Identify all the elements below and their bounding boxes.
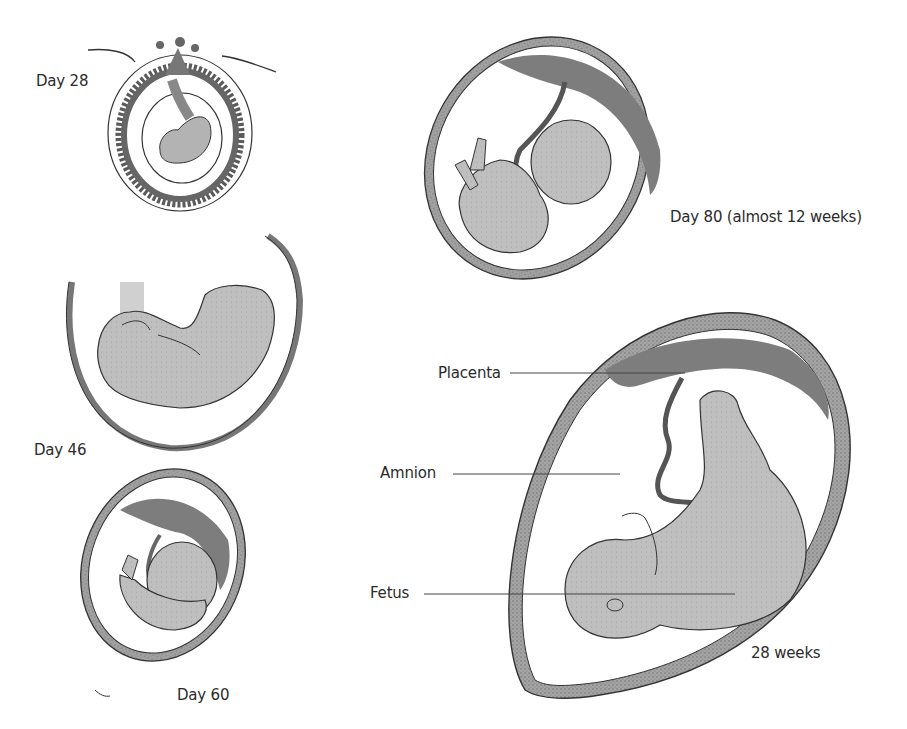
stage-label-day80: Day 80 (almost 12 weeks): [670, 208, 862, 226]
stage-28weeks-illustration: [509, 313, 850, 698]
stage-day28-illustration: [88, 37, 276, 211]
stage-day46-illustration: [66, 236, 300, 448]
stage-label-day46: Day 46: [34, 441, 86, 459]
fetal-development-diagram: Day 28 Day 46 Day 60 Day 80 (almost 12 w…: [0, 0, 907, 729]
stage-label-28weeks: 28 weeks: [751, 644, 820, 662]
annotation-placenta: Placenta: [438, 364, 501, 382]
stage-label-day60: Day 60: [177, 686, 229, 704]
stage-day80-illustration: [381, 0, 693, 320]
stage-label-day28: Day 28: [36, 72, 88, 90]
stage-day60-illustration: [54, 446, 271, 697]
annotation-fetus: Fetus: [370, 584, 409, 602]
annotation-amnion: Amnion: [380, 464, 436, 482]
